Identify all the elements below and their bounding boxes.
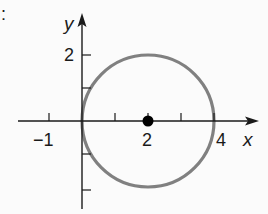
y-tick-label-2: 2 — [64, 45, 74, 65]
x-tick-label-2: 2 — [142, 130, 152, 150]
y-axis-label: y — [62, 13, 75, 34]
x-tick-label-4: 4 — [216, 130, 226, 150]
center-point — [143, 116, 154, 127]
x-ticks — [49, 113, 214, 121]
x-tick-label-neg1: −1 — [33, 130, 54, 150]
circle-graph: −1 2 4 2 x y — [0, 0, 268, 214]
x-axis-label: x — [242, 129, 254, 150]
